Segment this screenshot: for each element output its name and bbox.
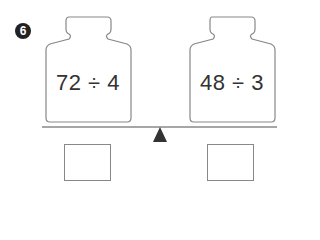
left-answer-box[interactable] [64,144,111,181]
fulcrum-triangle [153,127,167,142]
right-weight-expression: 48 ÷ 3 [187,70,277,96]
right-answer-box[interactable] [207,144,254,181]
left-weight-expression: 72 ÷ 4 [43,70,133,96]
